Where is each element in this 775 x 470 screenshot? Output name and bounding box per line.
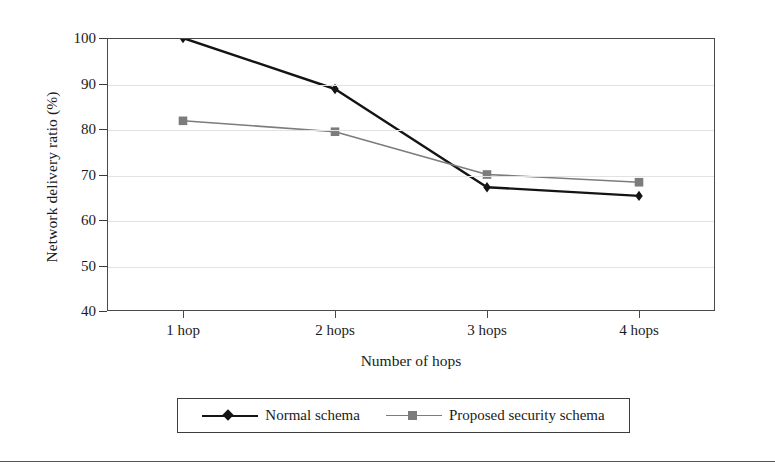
data-point-marker [179, 117, 188, 126]
legend-label: Normal schema [265, 407, 360, 424]
gridline [108, 221, 714, 222]
gridline [108, 267, 714, 268]
x-tick-label: 3 hops [442, 322, 532, 339]
plot-area [107, 38, 715, 311]
data-point-marker [483, 170, 492, 179]
y-tick-label: 40 [52, 303, 96, 320]
data-point-marker [483, 182, 490, 192]
legend-label: Proposed security schema [449, 407, 605, 424]
x-tick-label: 4 hops [594, 322, 684, 339]
series-line-1 [183, 39, 639, 196]
figure-container: Network delivery ratio (%) 4050607080901… [0, 0, 775, 470]
y-tick-label: 50 [52, 257, 96, 274]
y-tick-label: 60 [52, 212, 96, 229]
gridline [108, 85, 714, 86]
x-tick-mark [183, 311, 184, 318]
diamond-marker-icon [202, 409, 258, 423]
gridline [108, 176, 714, 177]
y-tick-mark [99, 266, 107, 267]
y-tick-mark [99, 175, 107, 176]
x-axis-title: Number of hops [107, 352, 715, 370]
x-tick-mark [335, 311, 336, 318]
data-series-layer [108, 39, 714, 310]
y-tick-mark [99, 311, 107, 312]
gridline [108, 130, 714, 131]
x-tick-mark [487, 311, 488, 318]
y-axis-tick-labels: 405060708090100 [50, 0, 96, 470]
y-tick-label: 80 [52, 121, 96, 138]
y-tick-mark [99, 129, 107, 130]
y-tick-mark [99, 220, 107, 221]
legend: Normal schemaProposed security schema [177, 398, 630, 433]
y-tick-mark [99, 84, 107, 85]
legend-entry-2[interactable]: Proposed security schema [386, 407, 605, 424]
y-tick-label: 70 [52, 166, 96, 183]
y-tick-label: 90 [52, 75, 96, 92]
data-point-marker [331, 127, 340, 136]
x-tick-label: 1 hop [138, 322, 228, 339]
data-point-marker [635, 191, 642, 201]
legend-entry-1[interactable]: Normal schema [202, 407, 360, 424]
data-point-marker [635, 178, 644, 187]
square-marker-icon [386, 409, 442, 423]
page-bottom-rule [0, 461, 775, 462]
x-tick-mark [639, 311, 640, 318]
y-tick-label: 100 [52, 30, 96, 47]
x-tick-label: 2 hops [290, 322, 380, 339]
y-tick-mark [99, 38, 107, 39]
